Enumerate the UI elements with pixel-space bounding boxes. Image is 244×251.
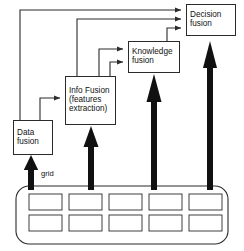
connector-data-to-info: [40, 98, 60, 120]
node-knowledge-fusion-line-2: fusion: [132, 57, 154, 66]
thick-arrow-grid-to-data-fusion: [24, 155, 38, 190]
thick-arrow-grid-to-decision-fusion: [203, 41, 217, 190]
grid-cell: [189, 194, 222, 210]
connector-info-to-knowledge-secondary: [110, 62, 123, 76]
diagram-canvas: Data fusion Info Fusion (features extrac…: [0, 0, 244, 251]
grid-cell: [69, 215, 102, 231]
grid-cell: [109, 194, 142, 210]
grid-cell: [149, 215, 182, 231]
node-decision-fusion-line-2: fusion: [190, 20, 212, 29]
thick-arrow-grid-to-knowledge-fusion: [147, 74, 162, 190]
grid-cell: [69, 194, 102, 210]
node-info-fusion-line-3: extraction): [69, 105, 107, 114]
node-info-fusion[interactable]: Info Fusion (features extraction): [65, 76, 116, 125]
connector-knowledge-to-decision: [167, 28, 181, 41]
grid-container: [16, 186, 228, 244]
grid-label: grid: [41, 169, 54, 178]
grid-cell: [29, 194, 62, 210]
thick-arrows-layer: [24, 41, 217, 190]
node-knowledge-fusion[interactable]: Knowledge fusion: [128, 41, 180, 73]
grid-cell: [29, 215, 62, 231]
grid-cell: [109, 215, 142, 231]
node-data-fusion-line-2: fusion: [17, 138, 39, 147]
grid-cell: [149, 194, 182, 210]
node-decision-fusion[interactable]: Decision fusion: [186, 4, 236, 36]
thick-arrow-grid-to-info-fusion: [84, 126, 99, 190]
node-data-fusion[interactable]: Data fusion: [13, 120, 53, 155]
grid-cell: [189, 215, 222, 231]
